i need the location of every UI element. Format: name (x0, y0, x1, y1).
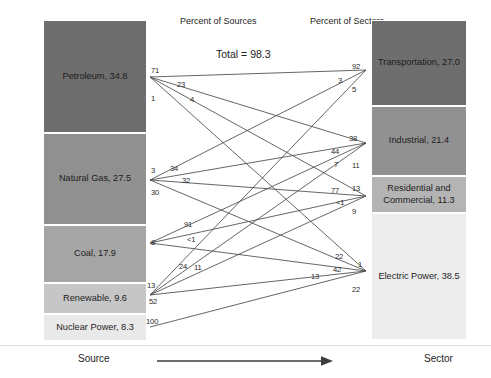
source-node-label: Renewable, 9.6 (63, 293, 127, 305)
flow-value-sector-electric-petroleum: 1 (358, 260, 362, 269)
flow-value-natural-gas-electric-power: 30 (151, 188, 159, 197)
source-node-petroleum[interactable]: Petroleum, 34.8 (43, 20, 147, 133)
source-node-nuclear-power[interactable]: Nuclear Power, 8.3 (43, 314, 147, 341)
flow-value-sector-transportation-renewable: 5 (352, 85, 356, 94)
flow-nuclear-power-electric-power (150, 271, 366, 327)
flow-value-petroleum-transportation: 71 (151, 66, 159, 75)
sector-node-label: Transportation, 27.0 (378, 57, 460, 69)
flow-value-sector-residential-renewable: 9 (352, 207, 356, 216)
total-label: Total = 98.3 (216, 48, 271, 60)
flow-value-sector-transportation-natural-gas: 3 (338, 76, 342, 85)
sector-axis-label: Sector (424, 353, 453, 364)
flow-value-renewable-electric-power: 52 (149, 297, 157, 306)
flow-coal-residential-commercial (150, 196, 366, 243)
flow-value-coal-industrial: 8 (151, 238, 155, 247)
flow-renewable-residential-commercial (150, 196, 366, 295)
flow-petroleum-electric-power (150, 77, 366, 271)
right-arrow-icon (155, 352, 335, 370)
flow-petroleum-transportation (150, 70, 366, 77)
sector-node-label: Residential and Commercial, 11.3 (383, 183, 454, 206)
flow-value-petroleum-industrial: 23 (177, 80, 185, 89)
flow-value-natural-gas-industrial: 34 (170, 164, 178, 173)
flow-value-sector-residential-natural-gas: 77 (331, 186, 339, 195)
flow-group-natural-gas (150, 70, 366, 271)
axis-divider (0, 345, 491, 346)
flow-value-sector-electric-renewable: 13 (311, 272, 319, 281)
flow-value-coal-residential-commercial: <1 (187, 235, 195, 244)
source-node-label: Natural Gas, 27.5 (59, 173, 131, 185)
flow-value-natural-gas-residential-commercial: 32 (182, 176, 190, 185)
flow-value-renewable-transportation: 13 (147, 281, 155, 290)
source-node-coal[interactable]: Coal, 17.9 (43, 225, 147, 283)
source-node-renewable[interactable]: Renewable, 9.6 (43, 283, 147, 314)
flow-value-sector-industrial-coal: 7 (334, 160, 338, 169)
flow-value-petroleum-electric-power: 1 (151, 94, 155, 103)
flow-value-coal-electric-power: 91 (184, 220, 192, 229)
source-node-label: Petroleum, 34.8 (63, 71, 128, 83)
sector-node-industrial[interactable]: Industrial, 21.4 (371, 106, 467, 176)
sector-node-label: Industrial, 21.4 (389, 135, 449, 147)
flow-value-sector-industrial-renewable: 11 (352, 161, 360, 170)
source-axis-label: Source (78, 353, 110, 364)
flow-value-sector-residential-coal: <1 (336, 198, 344, 207)
flow-group-petroleum (150, 70, 366, 271)
flow-group-nuclear-power (150, 271, 366, 327)
flow-renewable-electric-power (150, 271, 366, 295)
flow-value-nuclear-power-electric-power: 100 (146, 317, 158, 326)
flow-value-natural-gas-transportation: 3 (151, 166, 155, 175)
flow-value-renewable-residential-commercial: 11 (194, 263, 202, 272)
sankey-figure: Percent of Sources Percent of Sectors To… (0, 0, 491, 378)
source-node-label: Coal, 17.9 (74, 248, 116, 260)
sector-node-label: Electric Power, 38.5 (378, 271, 459, 283)
flow-value-sector-electric-nuclear-power: 22 (352, 285, 360, 294)
source-node-label: Nuclear Power, 8.3 (56, 322, 134, 334)
flow-value-sector-residential-petroleum: 13 (352, 184, 360, 193)
source-node-natural-gas[interactable]: Natural Gas, 27.5 (43, 133, 147, 225)
flow-value-sector-industrial-petroleum: 38 (349, 134, 357, 143)
flow-value-sector-industrial-natural-gas: 44 (331, 147, 339, 156)
flow-value-sector-electric-coal: 42 (333, 265, 341, 274)
flow-value-petroleum-residential-commercial: 4 (190, 95, 194, 104)
flow-value-sector-transportation-petroleum: 92 (352, 62, 360, 71)
sector-node-transportation[interactable]: Transportation, 27.0 (371, 20, 467, 106)
sector-node-electric-power[interactable]: Electric Power, 38.5 (371, 213, 467, 340)
flow-value-sector-electric-natural-gas: 22 (335, 252, 343, 261)
flow-value-renewable-industrial: 24 (179, 262, 187, 271)
left-column-header: Percent of Sources (180, 16, 257, 26)
sector-node-residential-commercial[interactable]: Residential and Commercial, 11.3 (371, 176, 467, 213)
